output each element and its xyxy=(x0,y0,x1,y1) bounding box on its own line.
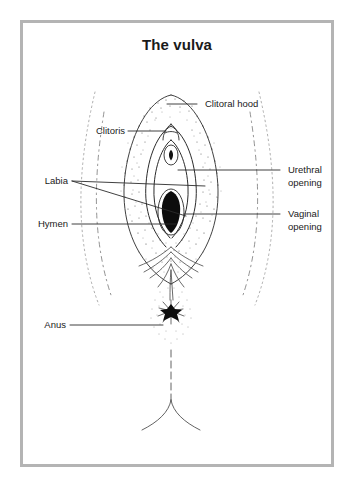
vaginal-opening xyxy=(162,191,180,233)
label-labia: Labia xyxy=(10,175,68,187)
figure-root: The vulva xyxy=(0,0,354,487)
label-hymen: Hymen xyxy=(8,218,68,230)
label-clitoral-hood: Clitoral hood xyxy=(205,98,258,110)
leader-labia-upper xyxy=(72,181,205,186)
perineum-lines xyxy=(139,247,203,300)
label-anus: Anus xyxy=(8,319,66,331)
label-urethral-opening-line1: Urethral xyxy=(288,164,322,176)
label-vaginal-opening-line2: opening xyxy=(288,221,322,233)
clitoris-glans xyxy=(169,150,173,161)
label-clitoris: Clitoris xyxy=(60,125,125,137)
label-urethral-opening-line2: opening xyxy=(288,177,322,189)
vulva-anatomy-illustration xyxy=(0,0,354,487)
label-vaginal-opening-line1: Vaginal xyxy=(288,208,319,220)
gluteal-cleft xyxy=(142,350,200,430)
labia-majora-outline xyxy=(124,95,218,284)
